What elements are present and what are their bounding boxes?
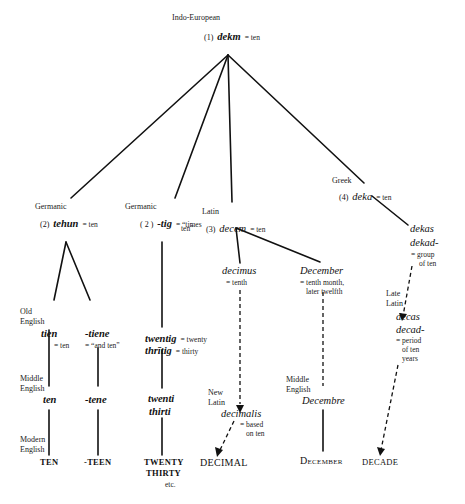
- stage-old-english-1: Old: [20, 308, 32, 316]
- tiene-gloss: = “and ten”: [85, 342, 120, 350]
- germanic1-number: (2): [40, 220, 49, 229]
- decad-gloss-2: of ten: [402, 346, 419, 354]
- root-number: (1): [204, 33, 213, 42]
- dekad-word: dekad-: [410, 238, 439, 249]
- stage-middle-english-right-2: English: [286, 386, 310, 394]
- modern-ten: TEN: [40, 458, 58, 467]
- thritig-gloss: = thirty: [176, 347, 198, 356]
- thritig-node: thrītig = thirty: [145, 341, 198, 357]
- decad-gloss-1: = period: [396, 337, 421, 345]
- root-language: Indo-European: [172, 14, 220, 22]
- dekas-word: dekas: [410, 224, 434, 235]
- latin-number: (3): [206, 225, 215, 234]
- stage-new-latin-2: Latin: [208, 399, 225, 407]
- december-latin-gloss-2: later twelfth: [306, 288, 342, 296]
- tree-lines: [0, 0, 465, 504]
- modern-decimal: DECIMAL: [200, 458, 248, 468]
- modern-etc: etc.: [165, 481, 176, 489]
- decimalis-word: decimalis: [221, 409, 261, 420]
- edge-dekad-decas: [403, 266, 412, 316]
- decimalis-gloss-2: on ten: [246, 430, 265, 438]
- latin-word: decem: [219, 223, 246, 234]
- tien-gloss: = ten: [54, 342, 69, 350]
- stage-late-latin-1: Late: [386, 290, 400, 298]
- ten-me-word: ten: [43, 395, 56, 406]
- thritig-word: thrītig: [145, 345, 172, 356]
- decembre-word: Decembre: [302, 396, 345, 407]
- modern-teen: -TEEN: [84, 458, 111, 467]
- root-gloss: = ten: [245, 33, 260, 42]
- edge-root-latin: [228, 55, 232, 202]
- edge-root-germanic1: [71, 55, 228, 198]
- modern-thirty: THIRTY: [146, 469, 181, 478]
- greek-number: (4): [339, 193, 348, 202]
- edge-decad-DECADE: [381, 365, 398, 450]
- twenti-word: twenti: [148, 394, 174, 405]
- germanic1-word: tehun: [53, 218, 78, 229]
- germanic1-gloss: = ten: [82, 220, 97, 229]
- germanic2-gloss-cont: ten”: [181, 225, 194, 233]
- stage-modern-english-2: English: [20, 446, 44, 454]
- tiene-word: -tiene: [85, 329, 110, 340]
- edge-root-germanic2: [175, 55, 228, 198]
- tene-me-word: -tene: [85, 395, 107, 406]
- arrowhead-DECIMAL: [215, 447, 223, 457]
- germanic2-word: -tig: [157, 218, 172, 229]
- dekad-gloss-2: of ten: [419, 260, 436, 268]
- greek-language: Greek: [332, 177, 352, 185]
- germanic1-language: Germanic: [35, 203, 67, 211]
- arrowhead-DECADE: [377, 447, 385, 456]
- germanic1-node: (2) tehun = ten: [40, 214, 98, 230]
- modern-twenty: TWENTY: [144, 458, 184, 467]
- stage-old-english-2: English: [20, 318, 44, 326]
- edge-decimalis-DECIMAL: [220, 421, 234, 450]
- decimalis-gloss-1: = based: [240, 421, 263, 429]
- greek-word: deka: [352, 191, 372, 202]
- stage-modern-english-1: Modern: [20, 436, 45, 444]
- decad-gloss-3: years: [402, 355, 418, 363]
- modern-december: December: [300, 456, 343, 466]
- tien-word: tien: [41, 329, 57, 340]
- latin-node: (3) decem = ten: [206, 219, 265, 235]
- stage-middle-english-right-1: Middle: [286, 376, 309, 384]
- decimus-gloss: = tenth: [226, 279, 247, 287]
- stage-late-latin-2: Latin: [386, 300, 403, 308]
- latin-language: Latin: [202, 208, 219, 216]
- edge-root-greek: [228, 55, 364, 183]
- december-latin-word: December: [300, 266, 343, 277]
- greek-node: (4) deka = ten: [339, 187, 391, 203]
- germanic2-number: ( 2 ): [140, 220, 153, 229]
- edge-tehun-tien: [54, 242, 66, 300]
- december-latin-gloss-1: = tenth month,: [300, 279, 344, 287]
- latin-gloss: = ten: [250, 225, 265, 234]
- dekad-gloss-1: = group: [411, 251, 435, 259]
- decad-word: decad-: [396, 325, 425, 336]
- decimus-word: decimus: [222, 266, 256, 277]
- greek-gloss: = ten: [376, 193, 391, 202]
- decas-word: decas: [396, 312, 420, 323]
- edge-tehun-tiene: [66, 242, 90, 300]
- thirti-word: thirti: [149, 407, 171, 418]
- modern-decade: DECADE: [362, 458, 398, 467]
- stage-new-latin-1: New: [208, 389, 223, 397]
- stage-middle-english-1: Middle: [20, 375, 43, 383]
- stage-middle-english-2: English: [20, 385, 44, 393]
- germanic2-language: Germanic: [125, 203, 157, 211]
- root-node: (1) dekm = ten: [204, 27, 260, 43]
- root-word: dekm: [217, 31, 240, 42]
